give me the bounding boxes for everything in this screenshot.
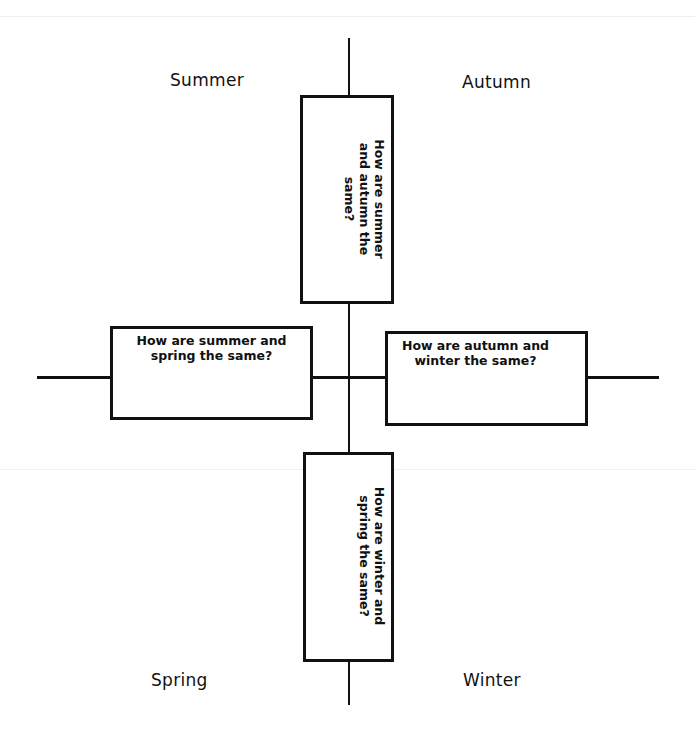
box-winter-spring[interactable]: How are winter and spring the same? — [303, 452, 394, 662]
prompt-winter-spring: How are winter and spring the same? — [357, 471, 387, 641]
box-autumn-winter[interactable]: How are autumn and winter the same? — [385, 331, 588, 426]
box-summer-autumn[interactable]: How are summer and autumn the same? — [300, 95, 394, 304]
season-label-autumn: Autumn — [462, 72, 531, 92]
box-summer-spring[interactable]: How are summer and spring the same? — [110, 326, 313, 420]
prompt-autumn-winter: How are autumn and winter the same? — [392, 338, 559, 368]
prompt-summer-spring: How are summer and spring the same? — [117, 333, 306, 363]
season-label-spring: Spring — [151, 670, 208, 690]
season-label-summer: Summer — [170, 70, 244, 90]
top-band — [0, 0, 695, 17]
prompt-summer-autumn: How are summer and autumn the same? — [342, 124, 387, 274]
season-label-winter: Winter — [463, 670, 521, 690]
